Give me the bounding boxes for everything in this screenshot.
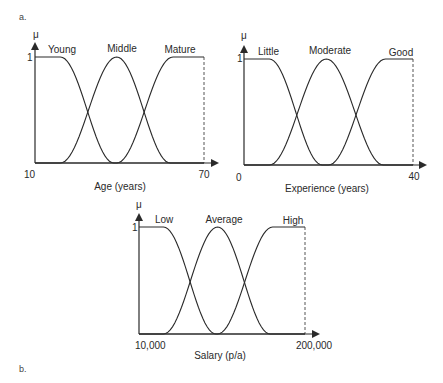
x-axis-arrow-icon	[419, 161, 427, 169]
curve-label-low: Low	[155, 214, 174, 225]
curve-label-average: Average	[205, 214, 243, 225]
x-tick-min: 10,000	[135, 340, 166, 351]
panel-label-b: b.	[19, 364, 27, 374]
curve-label-good: Good	[389, 47, 413, 58]
membership-curve-good	[244, 59, 413, 165]
curve-label-young: Young	[48, 44, 76, 55]
membership-curve-high	[139, 227, 305, 334]
membership-curve-average	[139, 227, 305, 334]
curve-label-high: High	[283, 215, 304, 226]
membership-curve-mature	[35, 57, 204, 163]
y-axis-arrow-icon	[240, 45, 248, 53]
y-axis-label-mu: μ	[241, 30, 247, 41]
fuzzy-membership-figure: a. b. YoungMiddleMatureμ11070Age (years)…	[0, 0, 443, 383]
panel-label-a: a.	[19, 12, 27, 22]
x-axis-label: Age (years)	[94, 181, 146, 192]
x-axis-label: Salary (p/a)	[194, 350, 246, 361]
curve-label-middle: Middle	[107, 43, 137, 54]
membership-curve-low	[139, 227, 305, 334]
x-tick-min: 0	[236, 172, 242, 183]
x-axis-arrow-icon	[312, 330, 320, 338]
curve-label-little: Little	[258, 46, 280, 57]
y-axis-arrow-icon	[31, 42, 39, 50]
y-axis-arrow-icon	[135, 213, 143, 221]
chart-experience: LittleModerateGoodμ1040Experience (years…	[236, 30, 427, 194]
chart-salary: LowAverageHighμ110,000200,000Salary (p/a…	[132, 199, 333, 361]
membership-curve-little	[244, 59, 413, 165]
x-tick-max: 40	[408, 171, 420, 182]
y-tick-1: 1	[237, 53, 243, 64]
x-tick-max: 200,000	[296, 340, 333, 351]
membership-curve-young	[35, 57, 204, 163]
x-axis-label: Experience (years)	[285, 183, 369, 194]
curve-label-mature: Mature	[164, 44, 196, 55]
membership-curve-middle	[35, 57, 204, 163]
y-tick-1: 1	[132, 222, 138, 233]
y-axis-label-mu: μ	[33, 29, 39, 40]
y-tick-1: 1	[27, 52, 33, 63]
x-axis-arrow-icon	[211, 159, 219, 167]
x-tick-max: 70	[198, 169, 210, 180]
x-tick-min: 10	[24, 169, 36, 180]
y-axis-label-mu: μ	[136, 199, 142, 210]
curve-label-moderate: Moderate	[309, 45, 352, 56]
membership-curve-moderate	[244, 59, 413, 165]
chart-age: YoungMiddleMatureμ11070Age (years)	[24, 29, 219, 192]
